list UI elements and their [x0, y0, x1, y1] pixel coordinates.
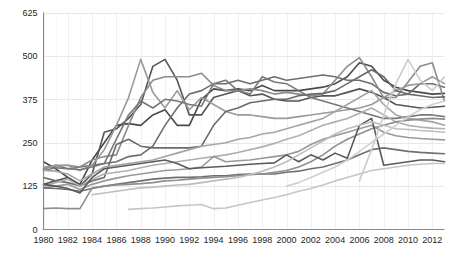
y-tick-label: 375	[22, 95, 37, 105]
y-tick-label: 250	[22, 138, 37, 148]
x-tick-label: 2006	[349, 235, 369, 245]
y-tick-label: 125	[22, 181, 37, 191]
x-tick-label: 1980	[33, 235, 53, 245]
y-tick-label: 0	[32, 225, 37, 235]
chart-plot-svg: 0125250375500625 19801982198419861988199…	[0, 0, 459, 259]
x-tick-label: 2004	[325, 235, 345, 245]
x-tick-label: 1988	[131, 235, 151, 245]
x-tick-label: 1998	[252, 235, 272, 245]
y-tick-label: 625	[22, 8, 37, 18]
x-tick-label: 1982	[58, 235, 78, 245]
x-tick-label: 2010	[398, 235, 418, 245]
x-tick-label: 1992	[179, 235, 199, 245]
x-axis-tick-labels: 1980198219841986198819901992199419961998…	[33, 235, 442, 245]
line-chart: 0125250375500625 19801982198419861988199…	[0, 0, 459, 259]
x-tick-label: 1984	[82, 235, 102, 245]
x-tick-label: 1996	[228, 235, 248, 245]
x-tick-label: 2008	[374, 235, 394, 245]
x-tick-label: 1990	[155, 235, 175, 245]
x-tick-label: 2002	[301, 235, 321, 245]
x-tick-label: 2000	[277, 235, 297, 245]
y-tick-label: 500	[22, 51, 37, 61]
x-tick-label: 1994	[204, 235, 224, 245]
x-tick-label: 2012	[422, 235, 442, 245]
x-tick-label: 1986	[106, 235, 126, 245]
